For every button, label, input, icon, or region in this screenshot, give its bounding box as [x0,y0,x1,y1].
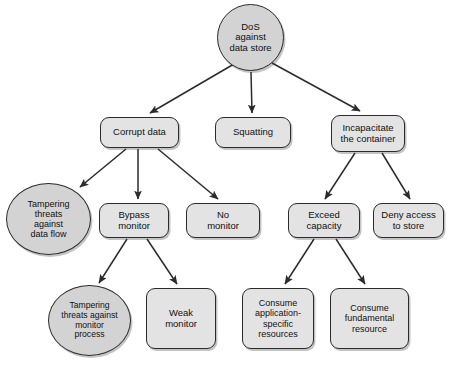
node-tampering-threats-against-monitor-process[interactable]: Tampering threats against monitor proces… [48,285,131,356]
node-dos-against-data-store[interactable]: DoS against data store [217,4,284,71]
node-label: Consume fundamental resource [342,303,398,333]
edge-bypass-monitor-to-weak-monitor [147,239,177,284]
edge-dos-against-data-store-to-incapacitate-the-container [272,63,360,111]
node-corrupt-data[interactable]: Corrupt data [100,117,179,148]
node-label: Deny access to store [378,210,438,231]
node-consume-application-specific-resources[interactable]: Consume application- specific resources [242,288,314,349]
edge-exceed-capacity-to-consume-fundamental-resource [336,239,365,284]
edge-corrupt-data-to-no-monitor [158,149,218,199]
node-label: Consume application- specific resources [252,298,304,338]
node-label: Tampering threats against data flow [24,199,72,239]
edge-dos-against-data-store-to-squatting [251,72,252,113]
node-squatting[interactable]: Squatting [215,117,291,148]
node-consume-fundamental-resource[interactable]: Consume fundamental resource [330,288,409,349]
node-label: Weak monitor [162,308,200,329]
node-label: Corrupt data [110,127,169,138]
node-label: Bypass monitor [115,210,153,231]
node-tampering-threats-against-data-flow[interactable]: Tampering threats against data flow [6,183,91,255]
attack-tree-diagram: DoS against data storeCorrupt dataSquatt… [0,0,454,368]
node-weak-monitor[interactable]: Weak monitor [146,288,216,349]
node-label: Exceed capacity [304,210,345,231]
edge-incapacitate-the-container-to-deny-access-to-store [382,153,410,199]
edge-bypass-monitor-to-tampering-threats-against-monitor-process [99,239,127,283]
node-deny-access-to-store[interactable]: Deny access to store [373,203,444,238]
edges [80,63,410,284]
node-label: DoS against data store [226,22,274,54]
node-label: No monitor [204,210,242,231]
node-label: Tampering threats against monitor proces… [58,301,120,340]
node-bypass-monitor[interactable]: Bypass monitor [99,203,169,238]
edge-dos-against-data-store-to-corrupt-data [150,64,234,113]
edge-incapacitate-the-container-to-exceed-capacity [325,153,355,199]
node-exceed-capacity[interactable]: Exceed capacity [288,203,360,238]
node-no-monitor[interactable]: No monitor [186,203,260,238]
edge-corrupt-data-to-tampering-threats-against-data-flow [80,149,126,187]
node-incapacitate-the-container[interactable]: Incapacitate the container [331,115,405,152]
node-label: Squatting [230,127,276,138]
edge-exceed-capacity-to-consume-application-specific-resources [285,239,314,284]
node-label: Incapacitate the container [338,123,399,144]
